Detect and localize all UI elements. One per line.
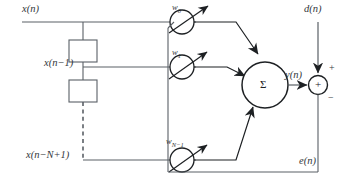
path-w0-to-sum: [194, 22, 258, 54]
label-weight-w1: w1: [172, 48, 181, 59]
label-delayed-signal-n: x(n−N+1): [26, 150, 69, 161]
label-error-signal: e(n): [299, 156, 316, 167]
label-weight-w0: w0: [172, 3, 181, 14]
adder-plus-sign-label: +: [329, 63, 335, 73]
summation-symbol: Σ: [260, 79, 266, 90]
error-feedback-path: [168, 22, 318, 172]
label-input-signal: x(n): [22, 4, 39, 15]
adder-minus-sign-label: −: [328, 93, 334, 103]
path-w1-to-sum: [194, 67, 245, 76]
delay-block-2: [69, 80, 97, 102]
label-weight-wN1: wN−1: [166, 137, 184, 148]
label-weight-w0-sub: 0: [178, 7, 181, 14]
label-delayed-signal-1: x(n−1): [44, 58, 73, 69]
adaptive-filter-diagram: x(n) x(n−1) x(n−N+1) d(n) y(n) e(n) w0 w…: [0, 0, 342, 184]
adder-symbol: +: [315, 79, 321, 90]
label-desired-signal: d(n): [304, 4, 322, 15]
path-wN1-to-sum: [194, 107, 253, 160]
label-weight-wN1-sub: N−1: [172, 141, 184, 148]
label-weight-w1-sub: 1: [178, 52, 181, 59]
label-output-signal: y(n): [285, 70, 302, 81]
